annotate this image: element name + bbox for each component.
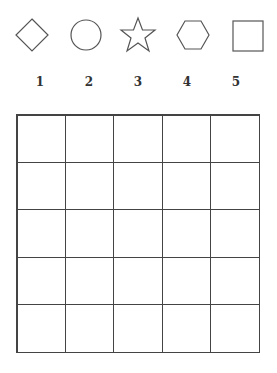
grid-cell[interactable] [162, 257, 211, 305]
grid-cell[interactable] [162, 162, 211, 210]
shape-label-5: 5 [226, 75, 246, 89]
circle-icon [66, 15, 106, 55]
grid-cell[interactable] [65, 257, 114, 305]
grid-cell[interactable] [210, 115, 259, 163]
grid-cell[interactable] [113, 209, 162, 257]
grid-cell[interactable] [65, 162, 114, 210]
grid-cell[interactable] [17, 257, 66, 305]
grid-cell[interactable] [17, 304, 66, 352]
shape-label-2: 2 [79, 75, 99, 89]
grid-cell[interactable] [162, 304, 211, 352]
diamond-icon [12, 15, 52, 55]
grid-cell[interactable] [65, 209, 114, 257]
grid-cell[interactable] [162, 115, 211, 163]
answer-grid [16, 114, 260, 353]
grid-cell[interactable] [65, 115, 114, 163]
grid-cell[interactable] [210, 162, 259, 210]
grid-cell[interactable] [113, 162, 162, 210]
grid-cell[interactable] [17, 162, 66, 210]
shape-label-1: 1 [30, 75, 50, 89]
grid-cell[interactable] [17, 209, 66, 257]
grid-cell[interactable] [113, 115, 162, 163]
shape-label-3: 3 [128, 75, 148, 89]
grid-cell[interactable] [210, 209, 259, 257]
grid-cell[interactable] [210, 257, 259, 305]
shape-label-4: 4 [177, 75, 197, 89]
grid-cell[interactable] [162, 209, 211, 257]
grid-cell[interactable] [210, 304, 259, 352]
square-icon [227, 15, 267, 55]
grid-cell[interactable] [113, 257, 162, 305]
grid-cell[interactable] [17, 115, 66, 163]
grid-cell[interactable] [113, 304, 162, 352]
star-icon [118, 15, 158, 55]
hexagon-icon [173, 15, 213, 55]
grid-cell[interactable] [65, 304, 114, 352]
